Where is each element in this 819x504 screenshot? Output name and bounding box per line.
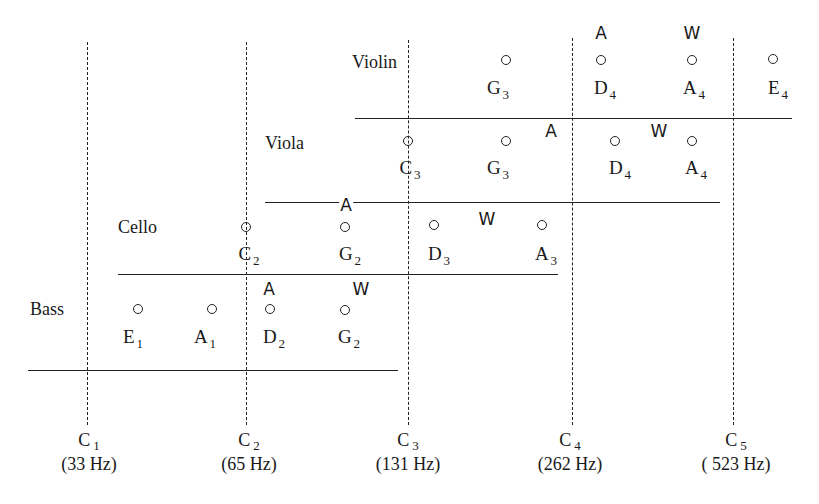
viola-string-g3-label: G3: [487, 158, 509, 181]
c2-reference-line: [246, 42, 247, 425]
viola-string-a4-marker: [687, 136, 697, 146]
instrument-label-violin: Violin: [352, 53, 398, 71]
axis-tick-c3-note: C3: [376, 430, 440, 454]
axis-tick-c2-note: C2: [221, 430, 276, 454]
cello-string-d3-marker: [429, 220, 439, 230]
axis-tick-c4-note: C4: [538, 430, 602, 454]
viola-string-c3-label: C3: [399, 158, 420, 181]
bass-string-e1-label: E1: [123, 327, 143, 350]
instrument-label-viola: Viola: [265, 134, 304, 152]
violin-marker-a: A: [594, 25, 608, 42]
violin-baseline: [355, 118, 792, 119]
violin-string-g3-label: G3: [487, 78, 509, 101]
c5-reference-line: [733, 38, 734, 425]
violin-string-a4-marker: [687, 55, 697, 65]
bass-string-d2-marker: [265, 304, 275, 314]
bass-string-e1-marker: [133, 304, 143, 314]
axis-tick-c1-note: C1: [61, 430, 116, 454]
violin-string-e4-marker: [768, 54, 778, 64]
axis-tick-c3: C3 (131 Hz): [376, 430, 440, 475]
axis-tick-c4: C4 (262 Hz): [538, 430, 602, 475]
viola-string-d4-marker: [610, 136, 620, 146]
viola-string-g3-marker: [501, 136, 511, 146]
bass-string-a1-label: A1: [194, 327, 216, 350]
cello-string-a3-label: A3: [535, 244, 557, 267]
cello-string-c2-label: C2: [238, 244, 259, 267]
violin-string-a4-label: A4: [683, 78, 705, 101]
violin-string-d4-label: D4: [594, 78, 616, 101]
axis-tick-c5-freq: ( 523 Hz): [702, 454, 771, 476]
viola-marker-w: W: [650, 123, 669, 140]
c1-reference-line: [87, 42, 88, 425]
axis-tick-c5: C5 ( 523 Hz): [702, 430, 771, 475]
cello-string-g2-label: G2: [339, 244, 361, 267]
cello-string-c2-marker: [241, 222, 251, 232]
cello-string-d3-label: D3: [428, 244, 450, 267]
violin-marker-w: W: [683, 25, 702, 42]
bass-marker-a: A: [262, 281, 276, 298]
axis-tick-c1-freq: (33 Hz): [61, 454, 116, 476]
bass-marker-w: W: [352, 281, 371, 298]
axis-tick-c3-freq: (131 Hz): [376, 454, 440, 476]
viola-string-d4-label: D4: [609, 158, 631, 181]
cello-marker-a: A: [339, 197, 353, 214]
bass-string-g2-marker: [340, 305, 350, 315]
c4-reference-line: [572, 38, 573, 425]
viola-marker-a: A: [544, 123, 558, 140]
bass-string-a1-marker: [207, 304, 217, 314]
axis-tick-c2: C2 (65 Hz): [221, 430, 276, 475]
violin-string-e4-label: E4: [768, 78, 788, 101]
bass-baseline: [28, 370, 398, 371]
c3-reference-line: [408, 40, 409, 425]
viola-string-a4-label: A4: [685, 158, 707, 181]
viola-string-c3-marker: [403, 136, 413, 146]
instrument-label-cello: Cello: [118, 218, 157, 236]
viola-baseline: [265, 202, 720, 203]
violin-string-d4-marker: [596, 55, 606, 65]
cello-baseline: [118, 274, 558, 275]
axis-tick-c2-freq: (65 Hz): [221, 454, 276, 476]
cello-marker-w: W: [478, 211, 497, 228]
instrument-label-bass: Bass: [30, 300, 64, 318]
bass-string-g2-label: G2: [338, 327, 360, 350]
bass-string-d2-label: D2: [263, 327, 285, 350]
violin-string-g3-marker: [501, 55, 511, 65]
axis-tick-c5-note: C5: [702, 430, 771, 454]
cello-string-g2-marker: [340, 222, 350, 232]
axis-tick-c4-freq: (262 Hz): [538, 454, 602, 476]
cello-string-a3-marker: [537, 220, 547, 230]
axis-tick-c1: C1 (33 Hz): [61, 430, 116, 475]
